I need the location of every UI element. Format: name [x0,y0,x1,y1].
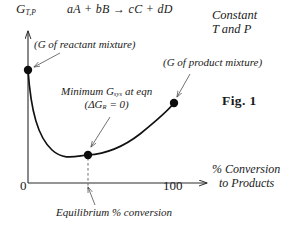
figure-number-label: Fig. 1 [222,93,257,108]
equilibrium-conversion-caption: Equilibrium % conversion [56,206,172,218]
x-axis-title-line2: to Products [212,176,280,190]
constant-conditions-line2: T and P [212,22,251,36]
delta-g-text: (ΔG [84,98,102,110]
constant-conditions-note: Constant T and P [212,8,257,36]
x-axis-title: % Conversion to Products [212,162,280,190]
x-tick-label-0: 0 [20,179,27,194]
y-axis-subscript: T,P [25,8,36,17]
x-axis-title-line1: % Conversion [212,162,280,176]
y-axis-label: GT,P [16,2,36,17]
minimum-gibbs-suffix: at eqn [122,85,152,97]
equilibrium-caption-arrow [88,187,95,205]
marker-minimum-gibbs [84,151,92,159]
delta-g-suffix: = 0) [107,98,129,110]
marker-reactant-mixture [24,66,32,74]
x-tick-label-100: 100 [163,179,183,194]
reaction-equation: aA + bB → cC + dD [67,3,173,16]
gibbs-energy-curve [28,70,174,157]
constant-conditions-line1: Constant [212,8,257,22]
minimum-gibbs-text: Minimum G [61,85,114,97]
reactant-mixture-annotation: (G of reactant mixture) [34,38,136,50]
figure-canvas: GT,P aA + bB → cC + dD Constant T and P … [0,0,292,230]
product-annotation-arrow [177,74,190,97]
reactant-annotation-arrow [34,53,60,67]
minimum-gibbs-annotation: Minimum Gsys at eqn (ΔGR = 0) [61,85,152,110]
minimum-gibbs-subscript: sys [114,90,122,97]
marker-product-mixture [170,99,178,107]
minimum-annotation-arrow [91,117,110,147]
delta-g-reaction-zero: (ΔGR = 0) [61,98,152,111]
product-mixture-annotation: (G of product mixture) [163,56,262,68]
y-axis-symbol: G [16,1,25,16]
